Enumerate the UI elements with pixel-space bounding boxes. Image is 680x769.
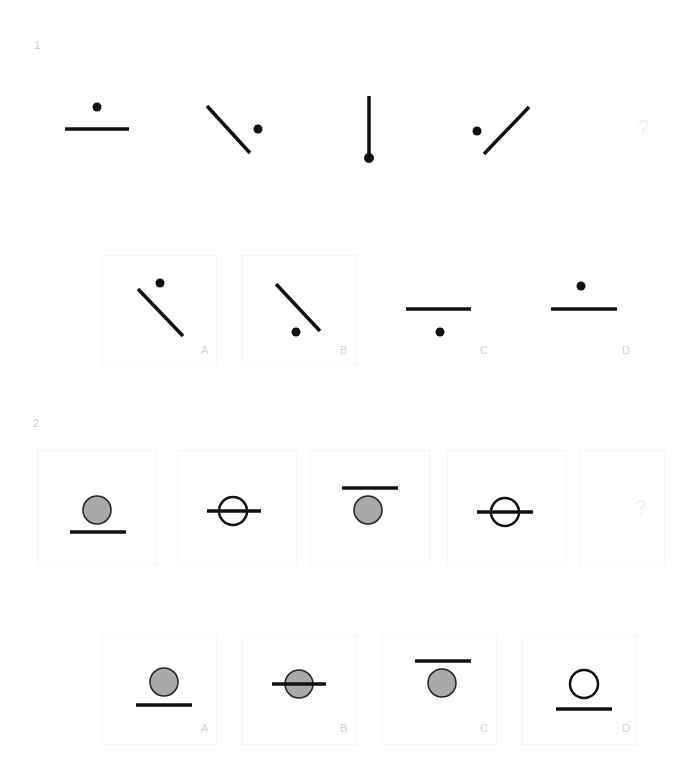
p1-seq-fig4: [473, 107, 530, 154]
p2-seq-fig2: [207, 497, 261, 525]
p2-option-c-figure[interactable]: [415, 661, 471, 697]
p1-seq-fig3: [364, 96, 374, 163]
p1-option-c-figure[interactable]: [406, 309, 471, 337]
p2-seq-fig3: [342, 488, 398, 524]
p2-seq-fig4: [477, 498, 533, 526]
p2-option-a-figure[interactable]: [136, 668, 192, 705]
figure-canvas: [0, 0, 680, 769]
p1-seq-fig2: [207, 106, 263, 153]
p1-option-a-figure[interactable]: [138, 279, 183, 337]
p1-seq-fig1: [65, 103, 129, 130]
p2-option-b-figure[interactable]: [272, 670, 326, 698]
p1-option-b-figure[interactable]: [276, 284, 320, 337]
p1-option-d-figure[interactable]: [551, 282, 617, 310]
p2-option-d-figure[interactable]: [556, 670, 612, 709]
p2-seq-fig1: [70, 496, 126, 532]
